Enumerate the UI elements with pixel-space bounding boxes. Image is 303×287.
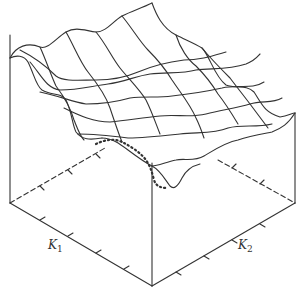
surface-wireframe (10, 3, 295, 166)
k2-axis (152, 203, 295, 286)
surface-front-bottom (102, 138, 152, 166)
back-right-dashed-edge (218, 160, 295, 203)
k1-axis (10, 203, 152, 286)
k2-axis-label: K2 (238, 238, 253, 254)
surface-back-left-edge (10, 3, 152, 58)
surface-front-left-edge (10, 56, 102, 139)
surface-plot-svg (0, 0, 303, 287)
k1-axis-label: K1 (48, 238, 63, 254)
dotted-projected-curve (96, 140, 168, 188)
surface-back-right-edge (152, 3, 295, 117)
back-left-dashed-edge (10, 148, 105, 203)
surface-dip (152, 164, 200, 188)
surface-plot-figure: K1 K2 (0, 0, 303, 287)
surface-front-right-edge (152, 113, 295, 166)
